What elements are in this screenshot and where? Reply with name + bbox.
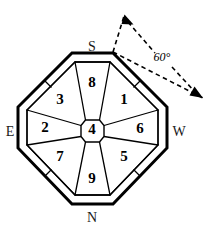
- compass-label-north: N: [87, 210, 97, 225]
- angle-span-upper: [128, 22, 155, 53]
- compass-label-south: S: [88, 39, 96, 54]
- region-label-6: 6: [136, 120, 144, 136]
- diagram-canvas: 1 2 3 4 5 6 7 8 9 S N E W 60°: [0, 0, 212, 226]
- angle-value-label: 60°: [154, 50, 171, 64]
- octagon-diagram: 1 2 3 4 5 6 7 8 9 S N E W 60°: [0, 0, 212, 226]
- compass-label-east: E: [6, 124, 15, 139]
- region-label-2: 2: [41, 119, 49, 135]
- region-label-4: 4: [88, 121, 96, 137]
- compass-label-west: W: [172, 124, 186, 139]
- region-label-8: 8: [88, 74, 96, 90]
- region-label-5: 5: [120, 148, 128, 164]
- region-label-9: 9: [88, 170, 96, 186]
- region-label-3: 3: [56, 91, 64, 107]
- angle-arrowhead-lower: [190, 87, 204, 99]
- angle-arrowhead-upper: [122, 15, 134, 25]
- region-label-1: 1: [120, 91, 128, 107]
- region-label-7: 7: [56, 148, 64, 164]
